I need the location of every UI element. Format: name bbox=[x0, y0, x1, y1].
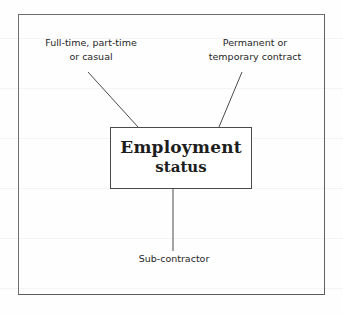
annotation-subcontractor-line1: Sub-contractor bbox=[112, 252, 236, 266]
annotation-subcontractor: Sub-contractor bbox=[112, 252, 236, 266]
central-node-employment-status: Employment status bbox=[110, 127, 252, 189]
annotation-contract-type: Permanent or temporary contract bbox=[196, 36, 314, 63]
central-node-title-line1: Employment bbox=[120, 139, 242, 157]
diagram-page: Full-time, part-time or casual Permanent… bbox=[0, 0, 343, 314]
annotation-employment-type: Full-time, part-time or casual bbox=[30, 36, 152, 63]
central-node-title-line2: status bbox=[155, 159, 206, 176]
annotation-contract-type-line1: Permanent or bbox=[196, 36, 314, 50]
annotation-contract-type-line2: temporary contract bbox=[196, 50, 314, 64]
annotation-employment-type-line1: Full-time, part-time bbox=[30, 36, 152, 50]
annotation-employment-type-line2: or casual bbox=[30, 50, 152, 64]
